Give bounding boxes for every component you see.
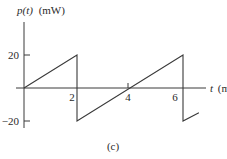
- x-tick-label-4: 4: [125, 91, 131, 103]
- y-axis-label: p(t) (mW): [16, 4, 65, 17]
- chart: p(t) (mW) 20 −20 2 4 6 t (ms) (c): [0, 0, 227, 159]
- y-tick-label-neg20: −20: [2, 115, 20, 127]
- figure-caption: (c): [107, 140, 120, 153]
- x-tick-label-2: 2: [69, 91, 75, 103]
- x-tick-label-6: 6: [172, 91, 178, 103]
- x-axis-label: t (ms): [210, 82, 227, 95]
- y-tick-label-20: 20: [8, 49, 20, 61]
